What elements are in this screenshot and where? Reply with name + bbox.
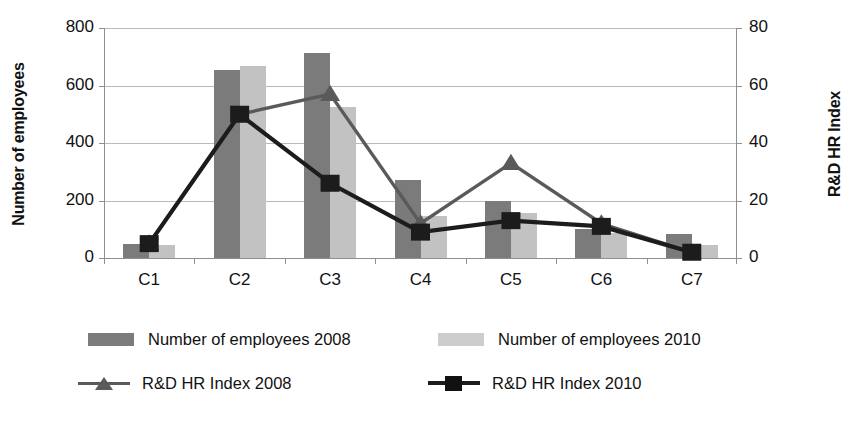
x-axis-tick-label-c6: C6	[571, 270, 631, 290]
legend-entry-2[interactable]: Number of employees 2010	[438, 326, 701, 352]
y-axis-left-tick-label: 800	[46, 17, 94, 37]
legend-swatch-line-icon	[428, 373, 480, 393]
chart-container: Number of employees R&D HR Index 0200400…	[0, 0, 857, 427]
x-axis-tick-label-c4: C4	[391, 270, 451, 290]
legend-triangle-marker-icon	[95, 377, 113, 390]
y-axis-left-tick-label: 400	[46, 132, 94, 152]
marker-c3-2008	[320, 85, 340, 101]
x-axis-tick-label-c7: C7	[662, 270, 722, 290]
legend-label: R&D HR Index 2008	[142, 374, 292, 393]
legend-label: R&D HR Index 2010	[492, 374, 642, 393]
marker-c4-2010	[411, 224, 430, 241]
x-axis-tick-label-c1: C1	[119, 270, 179, 290]
y-axis-left-tick-label: 200	[46, 190, 94, 210]
legend-label: Number of employees 2008	[148, 330, 351, 349]
y-axis-right-tick-label: 40	[749, 132, 797, 152]
legend-entry-3[interactable]: R&D HR Index 2008	[78, 370, 292, 396]
y-axis-right-title: R&D HR Index	[826, 39, 844, 249]
marker-c5-2008	[501, 154, 521, 170]
y-axis-right-tick-label: 0	[749, 247, 797, 267]
marker-c5-2010	[501, 212, 520, 229]
legend-square-marker-icon	[445, 376, 462, 391]
legend-entry-4[interactable]: R&D HR Index 2010	[428, 370, 642, 396]
x-axis-tick-label-c2: C2	[210, 270, 270, 290]
y-axis-right-tick-label: 60	[749, 75, 797, 95]
legend-entry-1[interactable]: Number of employees 2008	[88, 326, 351, 352]
line-series-layer	[104, 28, 737, 259]
plot-area	[104, 28, 737, 258]
marker-c1-2010	[140, 235, 159, 252]
y-axis-left-tick-label: 600	[46, 75, 94, 95]
y-axis-left-tick-label: 0	[46, 247, 94, 267]
y-axis-right-tick-label: 20	[749, 190, 797, 210]
legend-swatch-bar-icon	[438, 333, 484, 346]
chart-legend: Number of employees 2008Number of employ…	[0, 322, 857, 422]
marker-c6-2010	[592, 218, 611, 235]
marker-c2-2010	[230, 106, 249, 123]
marker-c7-2010	[682, 244, 701, 261]
legend-swatch-line-icon	[78, 373, 130, 393]
y-axis-left-title: Number of employees	[10, 39, 28, 249]
y-axis-right-tick-label: 80	[749, 17, 797, 37]
x-axis-tick-label-c5: C5	[481, 270, 541, 290]
legend-label: Number of employees 2010	[498, 330, 701, 349]
x-axis-tick-label-c3: C3	[300, 270, 360, 290]
legend-swatch-bar-icon	[88, 333, 134, 346]
marker-c3-2010	[321, 175, 340, 192]
